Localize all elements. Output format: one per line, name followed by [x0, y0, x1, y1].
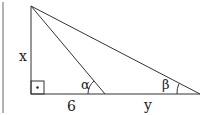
- hypotenuse: [31, 6, 200, 94]
- label-y: y: [143, 97, 152, 113]
- angle-beta-arc: [177, 84, 179, 95]
- label-x: x: [19, 48, 27, 64]
- label-beta: β: [162, 77, 170, 92]
- label-alpha: α: [81, 77, 90, 92]
- triangle-diagram: x 6 y α β: [0, 0, 204, 115]
- label-6: 6: [67, 98, 76, 114]
- right-angle-dot: [36, 86, 38, 88]
